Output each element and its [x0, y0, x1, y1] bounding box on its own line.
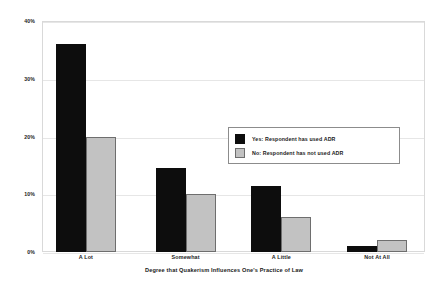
bar-yes[interactable]	[156, 168, 186, 252]
bar-no[interactable]	[281, 217, 311, 252]
y-tick-label: 40%	[24, 18, 35, 24]
y-tick-label: 10%	[24, 191, 35, 197]
x-axis: A LotSomewhatA LittleNot At All	[42, 254, 425, 266]
legend-swatch-no-icon	[235, 148, 245, 158]
bar-no[interactable]	[186, 194, 216, 252]
x-axis-title: Degree that Quakerism Influences One's P…	[0, 267, 448, 273]
bar-yes[interactable]	[251, 186, 281, 252]
legend-item-yes: Yes: Respondent has used ADR	[235, 132, 393, 146]
x-tick-label: A Lot	[79, 254, 93, 260]
x-tick-label: Not At All	[364, 254, 390, 260]
y-tick-label: 20%	[24, 134, 35, 140]
x-tick-label: A Little	[272, 254, 291, 260]
x-tick-label: Somewhat	[172, 254, 200, 260]
y-axis: 0%10%20%30%40%	[0, 21, 40, 252]
bar-chart-figure: 0%10%20%30%40% A LotSomewhatA LittleNot …	[0, 0, 448, 282]
bar-yes[interactable]	[347, 246, 377, 252]
legend-item-no: No: Respondent has not used ADR	[235, 146, 393, 160]
legend-swatch-yes-icon	[235, 134, 245, 144]
legend-label-no: No: Respondent has not used ADR	[252, 150, 344, 156]
bar-no[interactable]	[377, 240, 407, 252]
legend-label-yes: Yes: Respondent has used ADR	[252, 136, 336, 142]
bar-group	[156, 21, 216, 252]
bar-yes[interactable]	[56, 44, 86, 252]
bar-no[interactable]	[86, 137, 116, 253]
y-tick-label: 30%	[24, 76, 35, 82]
y-tick-label: 0%	[27, 249, 35, 255]
chart-legend: Yes: Respondent has used ADR No: Respond…	[228, 127, 400, 164]
bar-group	[56, 21, 116, 252]
